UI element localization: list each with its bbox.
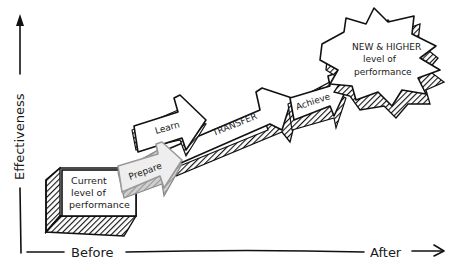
goal-burst-line3: performance xyxy=(354,67,412,77)
current-box-line3: performance xyxy=(69,199,130,210)
current-box-line2: level of xyxy=(71,187,106,198)
y-axis: Effectiveness xyxy=(12,14,27,253)
prepare-arrow: Prepare xyxy=(118,142,182,198)
y-axis-arrowhead-icon xyxy=(16,14,24,26)
goal-burst-line2: level of xyxy=(363,54,397,64)
y-axis-label: Effectiveness xyxy=(12,93,27,180)
current-box-bottom xyxy=(46,216,136,236)
performance-diagram: Effectiveness Before After TRANSFER Lear… xyxy=(0,0,457,271)
x-axis-label-before: Before xyxy=(71,245,114,260)
goal-burst-line1: NEW & HIGHER xyxy=(352,42,421,52)
y-axis-line-lower xyxy=(20,188,21,253)
x-axis: Before After xyxy=(27,245,444,260)
x-axis-label-after: After xyxy=(370,245,402,260)
current-box-line1: Current xyxy=(71,175,107,186)
x-axis-line-middle xyxy=(126,251,364,253)
